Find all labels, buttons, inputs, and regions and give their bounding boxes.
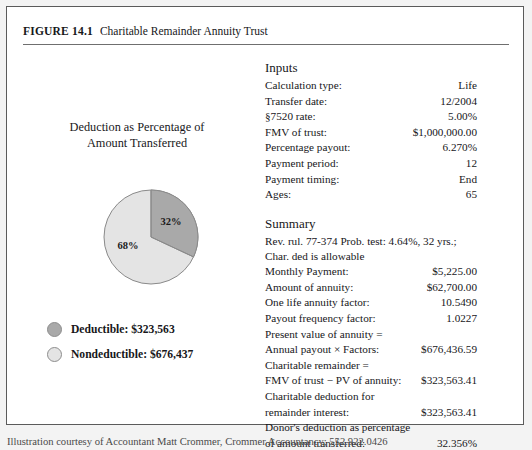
summary-row-payout-frequency-factor: Payout frequency factor: 1.0227 [265, 311, 477, 327]
legend-swatch-icon-nondeductible [47, 347, 62, 362]
input-label-ages: Ages: [265, 187, 291, 203]
legend-item-deductible: Deductible: $323,563 [47, 317, 257, 342]
input-value-payment-timing: End [451, 172, 477, 188]
summary-label-monthly-payment: Monthly Payment: [265, 264, 349, 280]
legend-label-nondeductible: Nondeductible: $676,437 [71, 348, 193, 361]
chart-panel: Deduction as Percentage of Amount Transf… [17, 55, 257, 415]
summary-row-one-life-annuity-factor: One life annuity factor: 10.5490 [265, 295, 477, 311]
summary-heading: Summary [265, 215, 477, 232]
input-row-transfer-date: Transfer date: 12/2004 [265, 94, 477, 110]
summary-row-present-value-of-annuity: Present value of annuity = Annual payout… [265, 327, 477, 358]
pie-label-deductible: 32% [161, 216, 182, 227]
inputs-heading: Inputs [265, 59, 477, 76]
pie-chart: 32% 68% [95, 181, 207, 293]
summary-label-payout-frequency-factor: Payout frequency factor: [265, 311, 376, 327]
input-label-7520-rate: §7520 rate: [265, 109, 316, 125]
input-value-payment-period: 12 [458, 156, 477, 172]
summary-value-donors-deduction-percentage: 32.356% [429, 436, 477, 450]
input-value-ages: 65 [458, 187, 477, 203]
summary-row-charitable-deduction: Charitable deduction for remainder inter… [265, 389, 477, 420]
chart-title: Deduction as Percentage of Amount Transf… [17, 119, 257, 151]
input-row-calculation-type: Calculation type: Life [265, 78, 477, 94]
summary-value-amount-of-annuity: $62,700.00 [419, 280, 477, 296]
data-panel: Inputs Calculation type: Life Transfer d… [265, 59, 477, 450]
summary-value-monthly-payment: $5,225.00 [424, 264, 477, 280]
figure-title: Charitable Remainder Annuity Trust [100, 25, 268, 37]
summary-label-charitable-remainder: Charitable remainder = FMV of trust − PV… [265, 358, 401, 389]
figure-label: FIGURE 14.1 [23, 25, 93, 37]
input-label-payment-timing: Payment timing: [265, 172, 339, 188]
chart-title-line-2: Amount Transferred [17, 135, 257, 151]
input-value-calculation-type: Life [450, 78, 477, 94]
summary-label-one-life-annuity-factor: One life annuity factor: [265, 295, 370, 311]
input-value-transfer-date: 12/2004 [432, 94, 477, 110]
chart-title-line-1: Deduction as Percentage of [17, 119, 257, 135]
input-label-calculation-type: Calculation type: [265, 78, 342, 94]
legend-label-deductible: Deductible: $323,563 [71, 323, 175, 336]
figure-caption: Illustration courtesy of Accountant Matt… [7, 436, 388, 447]
pie-label-nondeductible: 68% [118, 240, 139, 251]
input-label-transfer-date: Transfer date: [265, 94, 327, 110]
summary-value-charitable-deduction: $323,563.41 [413, 405, 477, 421]
input-row-7520-rate: §7520 rate: 5.00% [265, 109, 477, 125]
summary-label-amount-of-annuity: Amount of annuity: [265, 280, 353, 296]
summary-label-charitable-deduction: Charitable deduction for remainder inter… [265, 389, 374, 420]
input-label-fmv-of-trust: FMV of trust: [265, 125, 327, 141]
input-row-fmv-of-trust: FMV of trust: $1,000,000.00 [265, 125, 477, 141]
input-value-7520-rate: 5.00% [440, 109, 477, 125]
input-value-fmv-of-trust: $1,000,000.00 [405, 125, 477, 141]
summary-value-charitable-remainder: $323,563.41 [413, 373, 477, 389]
summary-value-payout-frequency-factor: 1.0227 [438, 311, 477, 327]
summary-row-monthly-payment: Monthly Payment: $5,225.00 [265, 264, 477, 280]
summary-value-present-value-of-annuity: $676,436.59 [413, 342, 477, 358]
summary-row-charitable-remainder: Charitable remainder = FMV of trust − PV… [265, 358, 477, 389]
header-divider [23, 44, 509, 45]
legend-swatch-icon-deductible [47, 322, 62, 337]
input-row-percentage-payout: Percentage payout: 6.270% [265, 140, 477, 156]
input-value-percentage-payout: 6.270% [435, 140, 478, 156]
chart-legend: Deductible: $323,563 Nondeductible: $676… [47, 317, 257, 367]
summary-row-amount-of-annuity: Amount of annuity: $62,700.00 [265, 280, 477, 296]
summary-value-one-life-annuity-factor: 10.5490 [433, 295, 477, 311]
input-row-payment-timing: Payment timing: End [265, 172, 477, 188]
summary-label-present-value-of-annuity: Present value of annuity = Annual payout… [265, 327, 383, 358]
legend-item-nondeductible: Nondeductible: $676,437 [47, 342, 257, 367]
input-row-ages: Ages: 65 [265, 187, 477, 203]
input-label-payment-period: Payment period: [265, 156, 339, 172]
input-row-payment-period: Payment period: 12 [265, 156, 477, 172]
figure-frame: FIGURE 14.1Charitable Remainder Annuity … [6, 6, 524, 425]
summary-note: Rev. rul. 77-374 Prob. test: 4.64%, 32 y… [265, 234, 477, 264]
input-label-percentage-payout: Percentage payout: [265, 140, 350, 156]
